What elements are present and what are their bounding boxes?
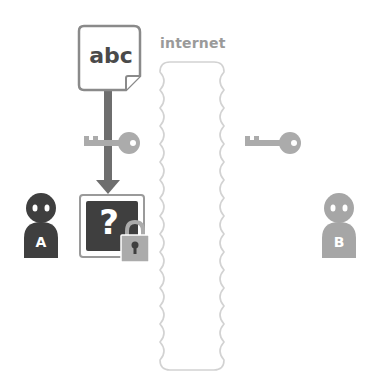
receiver-label: B bbox=[329, 234, 349, 250]
key-icon bbox=[245, 132, 301, 154]
internet-column bbox=[160, 62, 224, 370]
encrypted-content-symbol: ? bbox=[93, 200, 125, 244]
document-text: abc bbox=[86, 43, 136, 68]
internet-label: internet bbox=[160, 35, 226, 51]
sender-label: A bbox=[31, 234, 51, 250]
